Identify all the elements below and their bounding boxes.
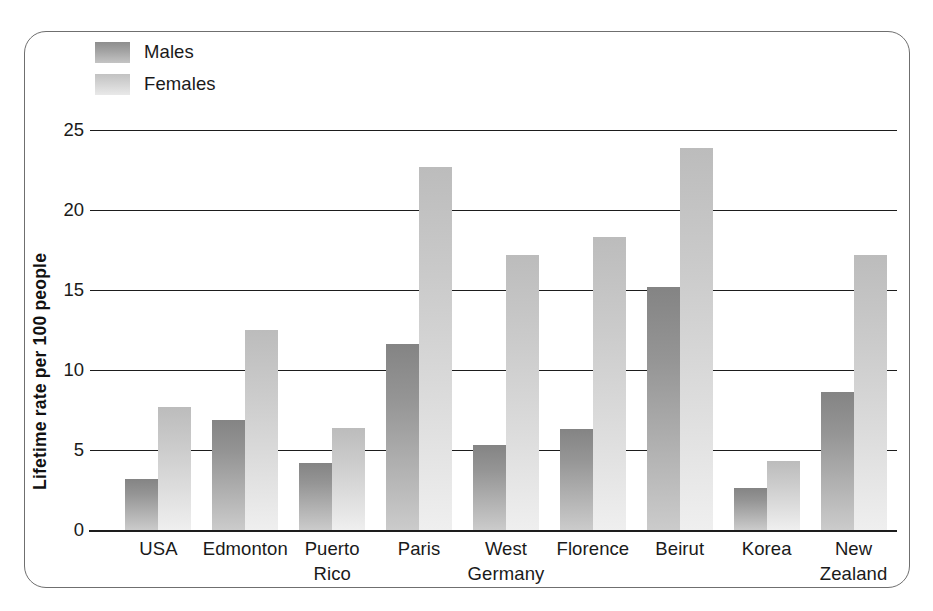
bar-group (115, 130, 202, 530)
x-tick-label-line: New (810, 536, 897, 561)
bar-females-puerto-rico (332, 428, 365, 530)
x-tick-label-line: Rico (289, 561, 376, 586)
bar-males-beirut (647, 287, 680, 530)
x-tick-label-line: West (463, 536, 550, 561)
x-axis-line (89, 530, 897, 532)
bar-males-new-zealand (821, 392, 854, 530)
bar-group (549, 130, 636, 530)
x-tick-label-line: Korea (723, 536, 810, 561)
x-tick-label: USA (115, 536, 202, 561)
y-tick-mark-25 (90, 130, 115, 131)
y-tick-mark-5 (90, 450, 115, 451)
bar-males-paris (386, 344, 419, 530)
x-tick-label: Korea (723, 536, 810, 561)
y-tick-mark-10 (90, 370, 115, 371)
x-tick-label-line: Edmonton (202, 536, 289, 561)
bar-females-edmonton (245, 330, 278, 530)
y-tick-label-0: 0 (44, 519, 84, 541)
x-tick-label: PuertoRico (289, 536, 376, 586)
bar-males-florence (560, 429, 593, 530)
bar-females-florence (593, 237, 626, 530)
plot-area: 0510152025 (115, 130, 897, 530)
bar-females-usa (158, 407, 191, 530)
legend-label-females: Females (144, 73, 216, 95)
bar-group (463, 130, 550, 530)
bar-females-new-zealand (854, 255, 887, 530)
legend-item-males: Males (95, 41, 216, 63)
bar-group (376, 130, 463, 530)
chart-figure: Males Females Lifetime rate per 100 peop… (0, 0, 933, 611)
x-tick-label: Edmonton (202, 536, 289, 561)
bar-group (810, 130, 897, 530)
bar-females-paris (419, 167, 452, 530)
bar-males-puerto-rico (299, 463, 332, 530)
x-tick-label-line: Florence (549, 536, 636, 561)
x-tick-label-line: USA (115, 536, 202, 561)
legend-swatch-males-icon (95, 42, 130, 63)
x-tick-label-line: Zealand (810, 561, 897, 586)
bar-group (202, 130, 289, 530)
legend-swatch-females-icon (95, 74, 130, 95)
y-tick-label-10: 10 (44, 359, 84, 381)
bar-females-korea (767, 461, 800, 530)
y-tick-mark-20 (90, 210, 115, 211)
chart-legend: Males Females (95, 41, 216, 95)
x-tick-label: NewZealand (810, 536, 897, 586)
y-tick-label-15: 15 (44, 279, 84, 301)
bar-males-korea (734, 488, 767, 530)
x-tick-label-line: Puerto (289, 536, 376, 561)
x-tick-label-line: Beirut (636, 536, 723, 561)
x-tick-label: WestGermany (463, 536, 550, 586)
x-tick-label: Paris (376, 536, 463, 561)
bar-series-container (115, 130, 897, 530)
x-tick-label: Beirut (636, 536, 723, 561)
bar-group (289, 130, 376, 530)
bar-females-beirut (680, 148, 713, 530)
bar-males-west-germany (473, 445, 506, 530)
x-axis-tick-labels: USAEdmontonPuertoRicoParisWestGermanyFlo… (115, 536, 897, 596)
bar-males-edmonton (212, 420, 245, 530)
y-tick-label-25: 25 (44, 119, 84, 141)
y-tick-mark-15 (90, 290, 115, 291)
bar-males-usa (125, 479, 158, 530)
x-tick-label: Florence (549, 536, 636, 561)
legend-label-males: Males (144, 41, 194, 63)
y-tick-label-20: 20 (44, 199, 84, 221)
bar-group (723, 130, 810, 530)
x-tick-label-line: Paris (376, 536, 463, 561)
legend-item-females: Females (95, 73, 216, 95)
bar-females-west-germany (506, 255, 539, 530)
x-tick-label-line: Germany (463, 561, 550, 586)
bar-group (636, 130, 723, 530)
y-tick-label-5: 5 (44, 439, 84, 461)
